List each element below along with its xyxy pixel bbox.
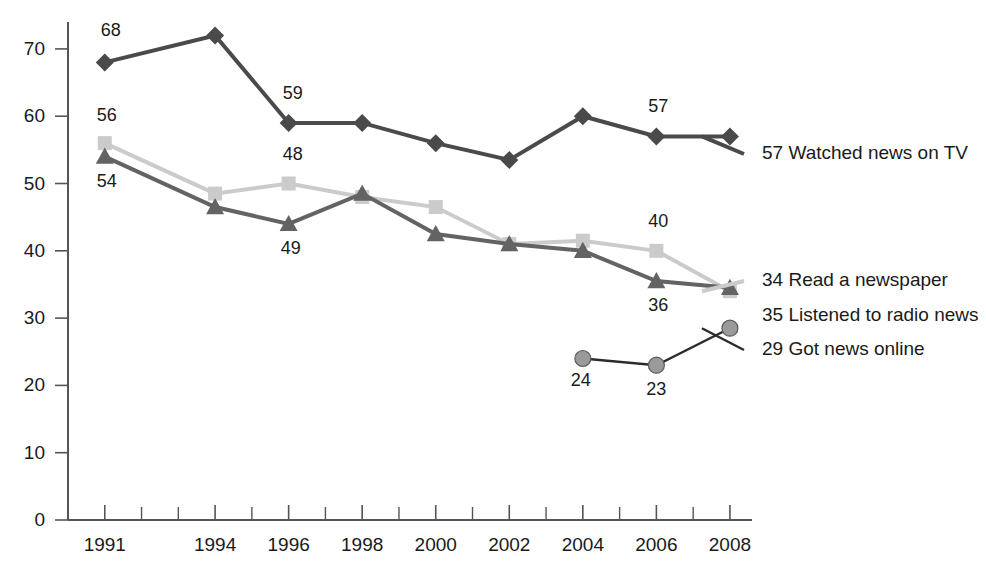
legend-line-stub xyxy=(702,136,744,154)
y-tick-label: 60 xyxy=(24,105,45,126)
data-point-label: 59 xyxy=(283,83,303,103)
y-tick-label: 0 xyxy=(34,509,45,530)
x-tick-label: 1996 xyxy=(268,534,310,555)
chart-canvas: 010203040506070 199119941996199820002002… xyxy=(0,0,986,579)
legend-label: 34 Read a newspaper xyxy=(762,269,949,290)
y-axis: 010203040506070 xyxy=(24,22,68,530)
marker-square xyxy=(649,244,663,258)
series-diamond xyxy=(96,26,739,169)
marker-circle xyxy=(648,357,664,373)
x-tick-label: 1998 xyxy=(341,534,383,555)
marker-diamond xyxy=(353,114,371,132)
series-layer xyxy=(96,26,739,373)
data-point-label: 49 xyxy=(281,238,301,258)
data-point-label: 23 xyxy=(646,379,666,399)
series-line xyxy=(105,157,730,288)
x-tick-group: 199119941996199820002002200420062008 xyxy=(68,505,751,555)
x-tick-label: 2002 xyxy=(488,534,530,555)
x-tick-label: 2008 xyxy=(709,534,751,555)
data-point-label: 36 xyxy=(648,295,668,315)
y-tick-group: 010203040506070 xyxy=(24,38,68,530)
y-tick-label: 70 xyxy=(24,38,45,59)
series-circle xyxy=(575,320,738,373)
series-triangle xyxy=(96,148,739,295)
data-point-label: 56 xyxy=(97,105,117,125)
data-point-label: 40 xyxy=(648,211,668,231)
series-line xyxy=(105,35,730,160)
data-point-label: 68 xyxy=(101,20,121,40)
marker-diamond xyxy=(96,53,114,71)
legend-label: 57 Watched news on TV xyxy=(762,142,968,163)
x-tick-label: 1991 xyxy=(84,534,126,555)
x-tick-label: 2004 xyxy=(562,534,605,555)
marker-diamond xyxy=(647,127,665,145)
marker-diamond xyxy=(574,107,592,125)
legend: 57 Watched news on TV34 Read a newspaper… xyxy=(702,136,979,359)
y-tick-label: 40 xyxy=(24,240,45,261)
marker-diamond xyxy=(500,151,518,169)
y-tick-label: 50 xyxy=(24,173,45,194)
legend-entry: 35 Listened to radio news xyxy=(762,304,979,325)
data-label-layer: 5648405449366859572423 xyxy=(97,20,669,399)
marker-diamond xyxy=(721,127,739,145)
legend-entry: 34 Read a newspaper xyxy=(702,269,949,291)
data-point-label: 48 xyxy=(283,144,303,164)
x-axis: 199119941996199820002002200420062008 xyxy=(68,505,752,555)
marker-square xyxy=(282,177,296,191)
series-line xyxy=(105,143,730,291)
legend-label: 35 Listened to radio news xyxy=(762,304,979,325)
y-tick-label: 30 xyxy=(24,307,45,328)
x-tick-label: 2000 xyxy=(415,534,457,555)
legend-entry: 57 Watched news on TV xyxy=(702,136,968,163)
line-chart: 010203040506070 199119941996199820002002… xyxy=(0,0,986,579)
x-tick-label: 2006 xyxy=(635,534,677,555)
marker-circle xyxy=(575,350,591,366)
data-point-label: 54 xyxy=(97,171,117,191)
marker-square xyxy=(429,200,443,214)
legend-label: 29 Got news online xyxy=(762,338,925,359)
data-point-label: 24 xyxy=(571,370,591,390)
x-tick-label: 1994 xyxy=(194,534,237,555)
y-tick-label: 20 xyxy=(24,374,45,395)
y-tick-label: 10 xyxy=(24,442,45,463)
marker-circle xyxy=(722,320,738,336)
data-point-label: 57 xyxy=(648,96,668,116)
marker-diamond xyxy=(427,134,445,152)
